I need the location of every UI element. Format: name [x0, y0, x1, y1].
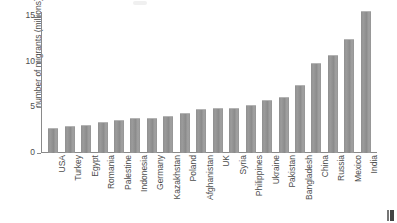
bar [163, 116, 173, 153]
bar [114, 120, 124, 153]
bar-slot [193, 12, 209, 153]
bar-slot [45, 12, 61, 153]
category-slot: Romania [94, 155, 110, 221]
bar [229, 108, 239, 153]
bar [196, 109, 206, 153]
top-artifact [133, 1, 147, 5]
bar-slot [111, 12, 127, 153]
bar-slot [242, 12, 258, 153]
y-tick-label: 0 [30, 147, 35, 157]
bar [81, 125, 91, 153]
category-slot: Palestine [111, 155, 127, 221]
bar-slot [341, 12, 357, 153]
category-slot: Pakistan [275, 155, 291, 221]
bar [147, 118, 157, 153]
bar-slot [210, 12, 226, 153]
category-slot: Bangladesh [292, 155, 308, 221]
bar [213, 108, 223, 153]
x-axis-label: India [369, 155, 379, 173]
bar-slot [144, 12, 160, 153]
x-axis-category-labels: USATurkeyEgyptRomaniaPalestineIndonesiaG… [42, 155, 377, 221]
category-slot: India [358, 155, 374, 221]
y-tick: 15 [37, 16, 41, 17]
bar [246, 105, 256, 153]
category-slot: Kazakhstan [160, 155, 176, 221]
bar-slot [160, 12, 176, 153]
bar [65, 126, 75, 153]
bar-slot [292, 12, 308, 153]
bar [361, 11, 371, 153]
y-tick: 5 [37, 107, 41, 108]
bar [295, 85, 305, 153]
bar [328, 55, 338, 153]
plot-area: 051015 [41, 12, 377, 153]
category-slot: Ukraine [259, 155, 275, 221]
bar-series [42, 12, 377, 153]
bar-slot [61, 12, 77, 153]
bar-slot [177, 12, 193, 153]
corner-artifact [387, 210, 394, 221]
bar-slot [127, 12, 143, 153]
bar-slot [308, 12, 324, 153]
bar-slot [226, 12, 242, 153]
bar [180, 113, 190, 153]
y-tick: 0 [37, 153, 41, 154]
bar [98, 122, 108, 153]
bar-slot [259, 12, 275, 153]
y-tick: 10 [37, 62, 41, 63]
category-slot: Germany [144, 155, 160, 221]
category-slot: Poland [177, 155, 193, 221]
category-slot: Russia [325, 155, 341, 221]
category-slot: USA [45, 155, 61, 221]
category-slot: Mexico [341, 155, 357, 221]
bar [262, 100, 272, 153]
bar-slot [94, 12, 110, 153]
category-slot: Turkey [61, 155, 77, 221]
y-tick-label: 10 [26, 56, 35, 66]
y-tick-label: 15 [26, 10, 35, 20]
bar [130, 118, 140, 153]
category-slot: Egypt [78, 155, 94, 221]
category-slot: Afghanistan [193, 155, 209, 221]
category-slot: Philippines [242, 155, 258, 221]
bar [311, 63, 321, 153]
category-slot: Indonesia [127, 155, 143, 221]
bar-slot [358, 12, 374, 153]
bar-slot [325, 12, 341, 153]
bar-chart: number of migrants (millions) 051015 USA… [0, 0, 397, 223]
bar [279, 97, 289, 153]
bar [48, 128, 58, 153]
bar-slot [275, 12, 291, 153]
category-slot: UK [210, 155, 226, 221]
y-tick-label: 5 [30, 101, 35, 111]
category-slot: China [308, 155, 324, 221]
bar [344, 39, 354, 153]
category-slot: Syria [226, 155, 242, 221]
bar-slot [78, 12, 94, 153]
